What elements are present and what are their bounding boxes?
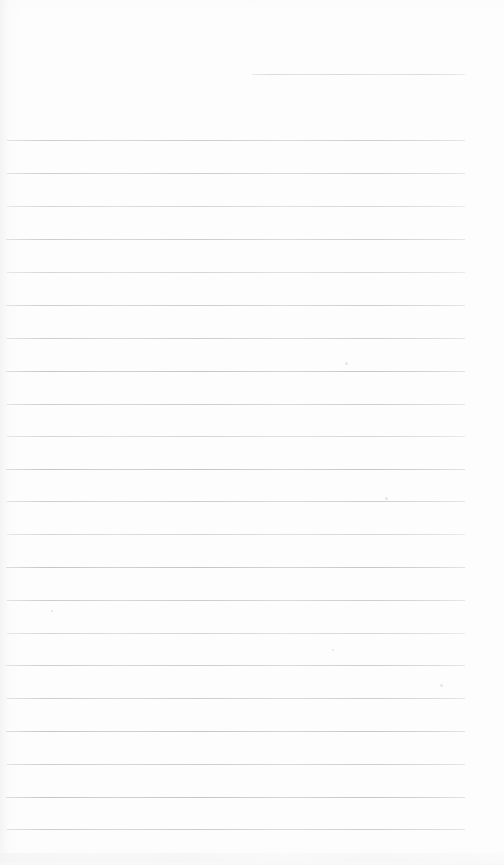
scanned-page [0,0,504,865]
page-text-content [0,0,504,865]
